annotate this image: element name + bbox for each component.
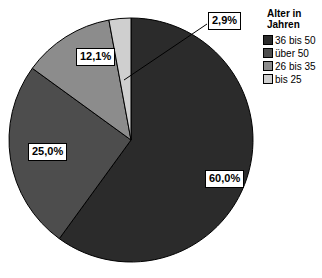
legend-swatch-icon-26-bis-35 <box>263 61 273 71</box>
data-label-36-bis-50: 60,0% <box>205 170 244 188</box>
legend-label-26-bis-35: 26 bis 35 <box>275 61 316 72</box>
legend-item-36-bis-50[interactable]: 36 bis 50 <box>263 34 322 46</box>
legend-item-26-bis-35[interactable]: 26 bis 35 <box>263 60 322 72</box>
legend-swatch-icon-bis-25 <box>263 74 273 84</box>
legend-label-bis-25: bis 25 <box>275 74 302 85</box>
legend: Alter in Jahren 36 bis 50 über 50 26 bis… <box>263 8 322 86</box>
data-label-bis-25: 2,9% <box>208 12 241 30</box>
legend-label-36-bis-50: 36 bis 50 <box>275 35 316 46</box>
legend-swatch-icon-36-bis-50 <box>263 35 273 45</box>
legend-item-bis-25[interactable]: bis 25 <box>263 73 322 85</box>
legend-item-ueber-50[interactable]: über 50 <box>263 47 322 59</box>
data-label-ueber-50: 25,0% <box>28 143 67 161</box>
data-label-26-bis-35: 12,1% <box>76 48 115 66</box>
legend-swatch-icon-ueber-50 <box>263 48 273 58</box>
legend-title: Alter in Jahren <box>267 8 322 30</box>
legend-label-ueber-50: über 50 <box>275 48 309 59</box>
pie-chart: 60,0% 25,0% 12,1% 2,9% Alter in Jahren 3… <box>0 0 322 278</box>
